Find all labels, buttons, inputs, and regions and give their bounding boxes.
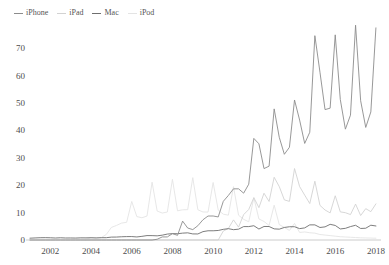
chart-container: iPhone iPad Mac iPod 010203040506070 200… [0, 0, 389, 265]
x-tick-label: 2008 [163, 246, 182, 256]
series-line-mac [30, 224, 376, 238]
y-tick-label: 10 [16, 208, 26, 218]
x-tick-label: 2004 [82, 246, 101, 256]
plot-area: 010203040506070 200220042006200820102012… [0, 0, 389, 265]
x-tick-label: 2016 [326, 246, 345, 256]
y-tick-label: 50 [16, 98, 26, 108]
x-tick-label: 2012 [245, 246, 263, 256]
x-tick-label: 2006 [123, 246, 142, 256]
series-line-iphone [30, 25, 376, 240]
y-tick-label: 30 [16, 153, 26, 163]
y-tick-label: 60 [16, 71, 26, 81]
y-tick-label: 40 [16, 125, 26, 135]
x-tick-label: 2010 [204, 246, 223, 256]
x-tick-label: 2018 [367, 246, 386, 256]
y-axis-tick-labels: 010203040506070 [16, 43, 26, 245]
y-tick-label: 0 [21, 235, 26, 245]
series-lines [30, 25, 376, 240]
x-tick-label: 2014 [286, 246, 305, 256]
y-tick-label: 70 [16, 43, 26, 53]
series-line-ipad [30, 169, 376, 240]
y-tick-label: 20 [16, 180, 26, 190]
x-axis-tick-labels: 200220042006200820102012201420162018 [41, 246, 385, 256]
x-tick-label: 2002 [41, 246, 59, 256]
